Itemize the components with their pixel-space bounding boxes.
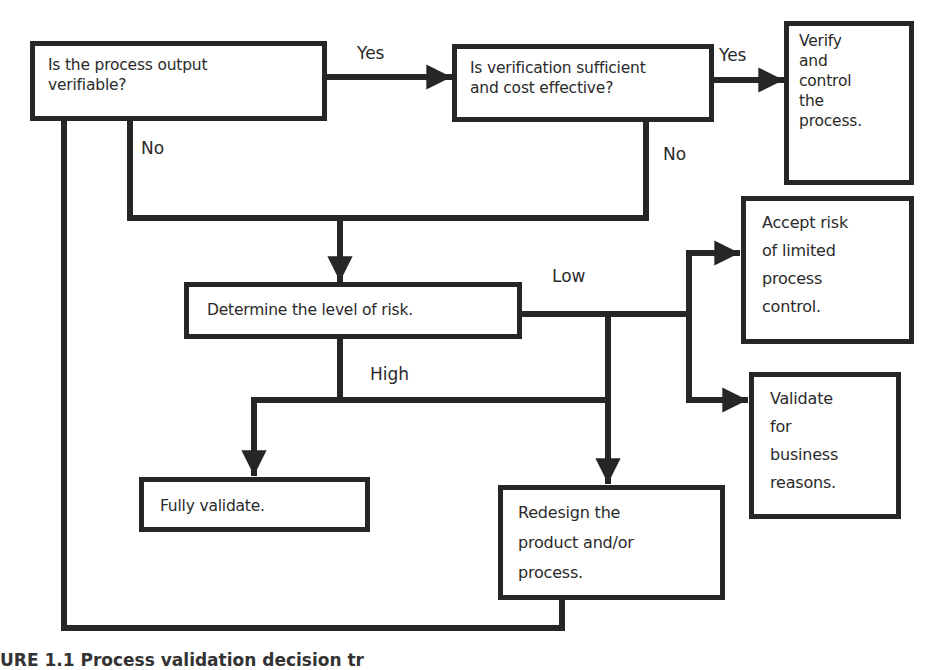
loop-back-line [64,119,562,628]
node-determine-risk: Determine the level of risk. [184,282,522,339]
node-text: Redesign the product and/or process. [518,498,708,588]
node-process-output-verifiable: Is the process output verifiable? [30,41,327,121]
edge-label-yes-1: Yes [357,43,384,63]
node-accept-risk: Accept risk of limited process control. [741,196,914,344]
edge-label-high: High [370,364,409,384]
node-verification-sufficient: Is verification sufficient and cost effe… [452,44,714,122]
edge-label-no-2: No [663,144,686,164]
node-text: Accept risk of limited process control. [762,209,897,321]
node-text: Verify and control the process. [799,31,899,131]
node-verify-and-control: Verify and control the process. [784,21,914,185]
node-fully-validate: Fully validate. [139,477,370,532]
node-redesign: Redesign the product and/or process. [498,485,725,600]
node-text: Determine the level of risk. [207,300,505,320]
node-text: Is verification sufficient and cost effe… [470,58,697,98]
no-line-1 [130,121,646,218]
edge-label-yes-2: Yes [719,45,746,65]
node-text: Fully validate. [160,496,353,516]
node-text: Is the process output verifiable? [48,55,310,95]
edge-label-no-1: No [141,138,164,158]
figure-caption: URE 1.1 Process validation decision tr [0,650,364,670]
node-validate-business: Validate for business reasons. [749,372,901,519]
edge-label-low: Low [552,266,585,286]
node-text: Validate for business reasons. [770,385,884,497]
